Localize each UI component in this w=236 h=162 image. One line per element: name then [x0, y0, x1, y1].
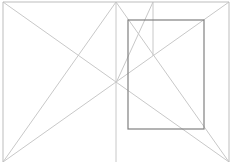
van-de-graaf-canon-diagram — [0, 0, 236, 162]
